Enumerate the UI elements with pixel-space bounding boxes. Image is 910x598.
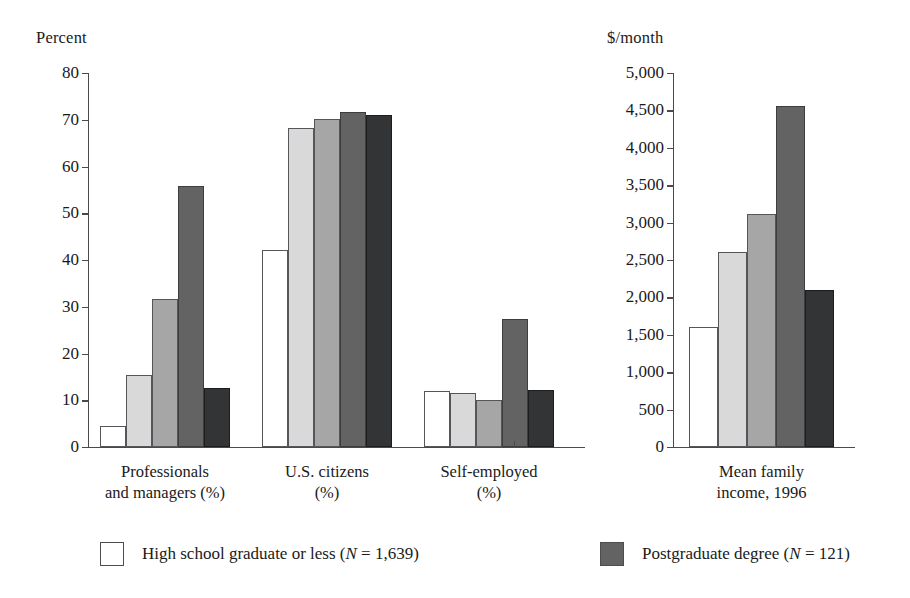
- bar: [776, 106, 805, 447]
- y-axis-tick: [82, 400, 88, 401]
- y-axis-tick: [667, 297, 673, 298]
- bar: [502, 319, 528, 447]
- y-axis-tick: [667, 260, 673, 261]
- x-axis-label-line: (%): [440, 482, 537, 503]
- bar: [100, 426, 126, 447]
- y-axis-tick-label: 2,500: [626, 251, 664, 268]
- x-axis-label-line: and managers (%): [105, 482, 225, 503]
- y-axis-tick: [667, 447, 673, 448]
- y-axis-tick-label: 40: [62, 251, 79, 268]
- bar: [689, 327, 718, 447]
- y-axis-tick-label: 4,000: [626, 139, 664, 156]
- y-axis-tick: [82, 260, 88, 261]
- y-axis-tick: [667, 148, 673, 149]
- y-axis-tick-label: 3,000: [626, 214, 664, 231]
- x-axis-label-line: U.S. citizens: [285, 461, 369, 482]
- x-axis-label-line: Mean family: [717, 461, 807, 482]
- bar: [288, 128, 314, 447]
- y-axis-tick-label: 0: [71, 438, 80, 455]
- bar: [178, 186, 204, 447]
- chart-panel-left: Percent 01020304050607080 Professionalsa…: [0, 0, 610, 520]
- y-axis-tick-label: 20: [62, 345, 79, 362]
- plot-area-right: 05001,0001,5002,0002,5003,0003,5004,0004…: [673, 73, 853, 447]
- y-axis-tick: [667, 410, 673, 411]
- y-axis-tick-label: 3,500: [626, 176, 664, 193]
- x-axis-label-line: income, 1996: [717, 482, 807, 503]
- y-axis-tick-label: 30: [62, 298, 79, 315]
- y-axis-tick: [667, 223, 673, 224]
- y-axis-tick-label: 10: [62, 391, 79, 408]
- legend-swatch: [600, 542, 624, 566]
- x-axis-group-label: Professionalsand managers (%): [105, 461, 225, 503]
- y-axis-line-left: [88, 73, 89, 447]
- y-axis-tick-label: 5,000: [626, 64, 664, 81]
- legend-swatch: [100, 542, 124, 566]
- y-axis-tick-label: 80: [62, 64, 79, 81]
- bar: [262, 250, 288, 447]
- x-axis-label-line: (%): [285, 482, 369, 503]
- bar: [476, 400, 502, 447]
- y-axis-tick-label: 1,000: [626, 363, 664, 380]
- legend-item[interactable]: Postgraduate degree (N = 121): [600, 542, 850, 566]
- bar: [805, 290, 834, 447]
- bar: [366, 115, 392, 447]
- y-axis-tick: [82, 213, 88, 214]
- bar: [528, 390, 554, 448]
- legend-label: Postgraduate degree (N = 121): [642, 544, 850, 564]
- y-axis-title-left: Percent: [36, 28, 87, 48]
- bar: [340, 112, 366, 447]
- bar: [314, 119, 340, 447]
- y-axis-tick: [82, 447, 88, 448]
- y-axis-tick-label: 70: [62, 111, 79, 128]
- x-axis-group-label: Self-employed(%): [440, 461, 537, 503]
- y-axis-tick: [82, 354, 88, 355]
- y-axis-tick-label: 500: [639, 401, 665, 418]
- y-axis-tick-label: 4,500: [626, 102, 664, 119]
- chart-legend: High school graduate or less (N = 1,639)…: [0, 534, 910, 594]
- bar: [152, 299, 178, 447]
- y-axis-tick-label: 2,000: [626, 289, 664, 306]
- x-axis-tick: [514, 441, 515, 448]
- y-axis-tick: [82, 307, 88, 308]
- x-axis-label-line: Professionals: [105, 461, 225, 482]
- x-axis-group-label: Mean familyincome, 1996: [717, 461, 807, 503]
- y-axis-tick: [82, 73, 88, 74]
- bar: [204, 388, 230, 447]
- bar: [718, 252, 747, 447]
- y-axis-tick: [82, 167, 88, 168]
- bar: [126, 375, 152, 447]
- y-axis-tick: [667, 335, 673, 336]
- y-axis-tick-label: 0: [656, 438, 665, 455]
- bar: [747, 214, 776, 447]
- y-axis-tick: [667, 73, 673, 74]
- legend-item[interactable]: High school graduate or less (N = 1,639): [100, 542, 419, 566]
- y-axis-tick-label: 60: [62, 158, 79, 175]
- x-axis-group-label: U.S. citizens(%): [285, 461, 369, 503]
- figure-bar-chart: Percent 01020304050607080 Professionalsa…: [0, 0, 910, 598]
- y-axis-line-right: [673, 73, 674, 447]
- y-axis-title-right: $/month: [607, 28, 663, 48]
- y-axis-tick: [667, 372, 673, 373]
- plot-area-left: 01020304050607080: [88, 73, 583, 447]
- y-axis-tick-label: 1,500: [626, 326, 664, 343]
- y-axis-tick: [82, 120, 88, 121]
- y-axis-tick: [667, 110, 673, 111]
- y-axis-tick-label: 50: [62, 204, 79, 221]
- bar: [424, 391, 450, 447]
- bar: [450, 393, 476, 447]
- y-axis-tick: [667, 185, 673, 186]
- chart-panel-right: $/month 05001,0001,5002,0002,5003,0003,5…: [600, 0, 910, 520]
- x-axis-label-line: Self-employed: [440, 461, 537, 482]
- legend-label: High school graduate or less (N = 1,639): [142, 544, 419, 564]
